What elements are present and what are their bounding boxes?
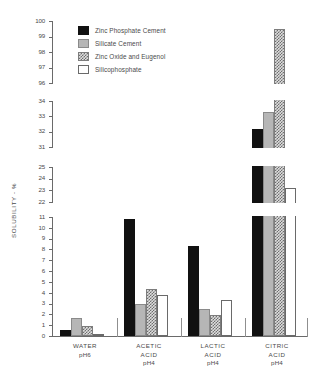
- y-tick-label: 4: [27, 290, 45, 296]
- group-ph: pH4: [247, 359, 307, 368]
- y-tick: [49, 314, 53, 315]
- y-tick: [49, 52, 53, 53]
- legend-label: Zinc Oxide and Eugenol: [95, 53, 165, 60]
- group-label-acetic-acid: ACETIC ACID pH4: [119, 342, 179, 368]
- legend-item-zinc-phosphate-cement: Zinc Phosphate Cement: [78, 24, 166, 37]
- y-tick-label: 5: [27, 279, 45, 285]
- y-tick-label: 10: [27, 225, 45, 231]
- group-separator-3: [245, 318, 246, 337]
- group-name: ACETIC: [119, 342, 179, 351]
- axis-break-3: [53, 84, 308, 100]
- bar-acetic-acid-black: [124, 219, 135, 336]
- y-tick-label: 96: [27, 80, 45, 86]
- y-tick-label: 9: [27, 235, 45, 241]
- axis-break-1: [53, 203, 308, 216]
- group-label-lactic-acid: LACTIC ACID pH4: [183, 342, 243, 368]
- group-name-2: ACID: [183, 351, 243, 360]
- y-tick: [49, 132, 53, 133]
- y-tick-label: 97: [27, 64, 45, 70]
- axis-break-2: [53, 148, 308, 166]
- legend-swatch-black: [78, 26, 89, 35]
- y-tick-label: 2: [27, 311, 45, 317]
- group-ph: pH6: [55, 351, 115, 360]
- y-tick-label: 33: [27, 113, 45, 119]
- y-tick: [49, 101, 53, 102]
- group-separator-2: [181, 318, 182, 337]
- bar-citric-acid-grey: [263, 112, 274, 336]
- y-tick-label: 98: [27, 49, 45, 55]
- y-tick: [49, 336, 53, 337]
- y-tick: [49, 179, 53, 180]
- bar-acetic-acid-check: [146, 289, 157, 336]
- y-tick: [49, 271, 53, 272]
- bar-water-grey: [71, 318, 82, 336]
- y-axis-spine-seg3: [52, 101, 53, 147]
- group-name: CITRIC: [247, 342, 307, 351]
- group-separator-1: [117, 318, 118, 337]
- y-tick-label: 32: [27, 128, 45, 134]
- bar-water-white: [93, 334, 104, 336]
- y-tick-label: 11: [27, 214, 45, 220]
- group-separator-4: [307, 318, 308, 337]
- y-axis-spine-seg2: [52, 167, 53, 202]
- legend-label: Silicophosphate: [95, 66, 142, 73]
- solubility-bar-chart: SOLUBILITY - % 0123456789101122232425313…: [0, 0, 317, 378]
- y-tick: [49, 21, 53, 22]
- group-name-2: ACID: [247, 351, 307, 360]
- y-axis-title: SOLUBILITY - %: [10, 183, 17, 238]
- y-tick-label: 3: [27, 300, 45, 306]
- y-axis-spine-seg1: [52, 217, 53, 336]
- y-tick: [49, 239, 53, 240]
- y-tick-label: 100: [27, 18, 45, 24]
- y-tick: [49, 228, 53, 229]
- group-ph: pH4: [183, 359, 243, 368]
- y-tick: [49, 116, 53, 117]
- group-label-citric-acid: CITRIC ACID pH4: [247, 342, 307, 368]
- y-tick: [49, 167, 53, 168]
- legend-item-silicophosphate: Silicophosphate: [78, 63, 166, 76]
- y-tick-label: 8: [27, 246, 45, 252]
- y-tick-label: 99: [27, 33, 45, 39]
- y-tick: [49, 293, 53, 294]
- y-tick: [49, 325, 53, 326]
- y-tick-label: 0: [27, 333, 45, 339]
- y-tick-label: 24: [27, 175, 45, 181]
- y-tick-label: 7: [27, 257, 45, 263]
- group-label-water: WATER pH6: [55, 342, 115, 359]
- group-ph: pH4: [119, 359, 179, 368]
- bar-citric-acid-check: [274, 29, 285, 336]
- group-name-2: ACID: [119, 351, 179, 360]
- y-tick: [49, 304, 53, 305]
- bar-acetic-acid-grey: [135, 304, 146, 336]
- y-tick-label: 23: [27, 187, 45, 193]
- legend-item-zinc-oxide-and-eugenol: Zinc Oxide and Eugenol: [78, 50, 166, 63]
- legend-swatch-checker: [78, 52, 89, 61]
- y-tick: [49, 282, 53, 283]
- y-tick: [49, 217, 53, 218]
- legend-label: Zinc Phosphate Cement: [95, 27, 166, 34]
- bar-water-check: [82, 326, 93, 336]
- bar-lactic-acid-grey: [199, 309, 210, 336]
- legend-swatch-grey: [78, 39, 89, 48]
- legend-label: Silicate Cement: [95, 40, 141, 47]
- group-name: WATER: [55, 342, 115, 351]
- y-tick-label: 31: [27, 144, 45, 150]
- bar-acetic-acid-white: [157, 295, 168, 336]
- y-tick: [49, 37, 53, 38]
- group-name: LACTIC: [183, 342, 243, 351]
- bar-water-black: [60, 330, 71, 336]
- legend: Zinc Phosphate Cement Silicate Cement Zi…: [78, 24, 166, 76]
- y-tick-label: 34: [27, 98, 45, 104]
- bar-lactic-acid-white: [221, 300, 232, 336]
- y-tick: [49, 260, 53, 261]
- y-tick-label: 1: [27, 322, 45, 328]
- bar-lactic-acid-black: [188, 246, 199, 336]
- y-tick: [49, 249, 53, 250]
- x-axis-baseline: [52, 336, 308, 337]
- legend-swatch-white: [78, 65, 89, 74]
- y-tick: [49, 68, 53, 69]
- y-tick: [49, 190, 53, 191]
- y-tick-label: 22: [27, 199, 45, 205]
- y-tick-label: 6: [27, 268, 45, 274]
- bar-lactic-acid-check: [210, 315, 221, 336]
